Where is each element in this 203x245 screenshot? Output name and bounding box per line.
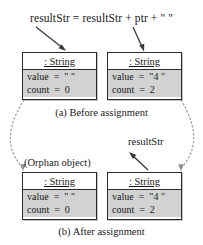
arrow-to-after-right-object	[129, 152, 148, 170]
attribute-count: count = 0	[27, 84, 96, 97]
object-box-before-right: : String value = "4 " count = 2	[107, 52, 182, 100]
object-type-label: : String	[129, 176, 160, 187]
orphan-object-label: (Orphan object)	[24, 157, 91, 168]
object-type-label: : String	[129, 56, 160, 67]
attribute-value: value = " "	[27, 71, 96, 84]
attribute-count: count = 0	[27, 204, 96, 217]
object-box-after-left: : String value = " " count = 0	[22, 172, 97, 220]
object-header-after-left: : String	[23, 173, 96, 190]
object-type-label: : String	[44, 176, 75, 187]
attribute-count: count = 2	[112, 84, 181, 97]
object-type-label: : String	[44, 56, 75, 67]
attribute-count: count = 2	[112, 204, 181, 217]
expression-text: resultStr = resultStr + ptr + " "	[0, 12, 203, 24]
attribute-value: value = " "	[27, 191, 96, 204]
object-body-after-right: value = "4 " count = 2	[108, 190, 181, 217]
arrow-to-before-right-object	[133, 27, 144, 52]
object-box-before-left: : String value = " " count = 0	[22, 52, 97, 100]
resultstr-pointer-label: resultStr	[128, 136, 164, 147]
object-header-before-left: : String	[23, 53, 96, 70]
object-body-before-right: value = "4 " count = 2	[108, 70, 181, 97]
object-box-after-right: : String value = "4 " count = 2	[107, 172, 182, 220]
object-diagram-figure: (a) Before assignment resultStr = result…	[0, 0, 203, 245]
panel-caption-before: (a) Before assignment	[0, 107, 203, 118]
panel-caption-after: (b) After assignment	[0, 226, 203, 237]
object-body-after-left: value = " " count = 0	[23, 190, 96, 217]
arrow-to-before-left-object	[36, 27, 66, 51]
object-header-before-right: : String	[108, 53, 181, 70]
attribute-value: value = "4 "	[112, 191, 181, 204]
object-header-after-right: : String	[108, 173, 181, 190]
object-body-before-left: value = " " count = 0	[23, 70, 96, 97]
attribute-value: value = "4 "	[112, 71, 181, 84]
